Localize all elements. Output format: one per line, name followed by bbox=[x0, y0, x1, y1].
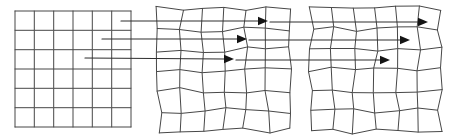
deformed-grid-1-lines bbox=[156, 6, 291, 133]
diagram-canvas bbox=[0, 0, 450, 139]
arrow-line-seg1 bbox=[85, 58, 225, 59]
source-grid-lines bbox=[15, 11, 131, 127]
arrow-head-icon-mid bbox=[258, 17, 268, 25]
source-grid bbox=[15, 11, 131, 127]
deformed-grid-2-lines bbox=[309, 6, 443, 134]
arrow-head-icon-end bbox=[380, 56, 390, 64]
arrow-head-icon-end bbox=[400, 36, 410, 44]
mapping-arrow-1 bbox=[121, 17, 428, 26]
arrow-head-icon-end bbox=[418, 18, 428, 26]
deformed-grid-1 bbox=[156, 6, 291, 133]
deformation-grid-diagram bbox=[0, 0, 450, 139]
mapping-arrow-2 bbox=[102, 35, 410, 44]
deformed-grid-2 bbox=[309, 6, 443, 134]
arrow-head-icon-mid bbox=[224, 55, 234, 63]
